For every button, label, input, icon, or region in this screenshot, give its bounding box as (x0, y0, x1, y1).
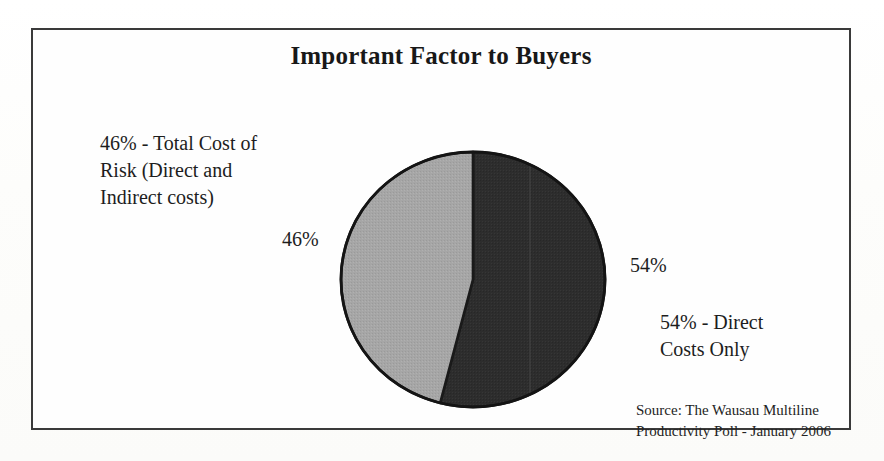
pie-label-direct-costs-only: 54% - Direct Costs Only (660, 309, 850, 363)
pie-value-label-46: 46% (282, 226, 319, 253)
pie-value-label-54: 54% (630, 252, 667, 279)
source-citation: Source: The Wausau Multiline Productivit… (636, 400, 881, 442)
pie-chart (339, 150, 607, 409)
chart-page: Important Factor to Buyers (0, 0, 884, 461)
pie-chart-svg (339, 150, 607, 409)
chart-title: Important Factor to Buyers (33, 42, 849, 70)
chart-frame: Important Factor to Buyers (31, 28, 851, 430)
pie-label-total-cost-of-risk: 46% - Total Cost of Risk (Direct and Ind… (100, 130, 340, 211)
